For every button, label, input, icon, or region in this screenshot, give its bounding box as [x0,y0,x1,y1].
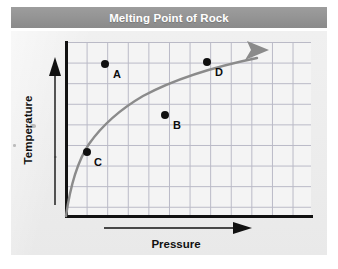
data-point-label-a: A [113,69,121,80]
figure-panel: A B C D Temperature Pressure [11,31,327,255]
data-point-label-d: D [215,67,223,78]
y-axis-title: Temperature [19,65,37,195]
data-point-b [161,111,169,119]
curve-path [66,58,257,216]
data-point-a [101,60,109,68]
data-point-label-c: C [94,157,102,168]
data-point-d [203,58,211,66]
x-axis-title-text: Pressure [151,238,200,250]
data-point-label-b: B [173,120,181,131]
y-axis-title-text: Temperature [22,96,34,165]
x-axis-arrow-icon [104,221,252,235]
page-title: Melting Point of Rock [109,12,229,24]
x-axis-title: Pressure [101,234,251,252]
chart-screenshot: Melting Point of Rock A B C D Temperatur… [0,0,338,269]
data-point-c [83,148,91,156]
chart-title-banner: Melting Point of Rock [11,7,327,28]
y-axis-arrow-icon [48,57,62,207]
